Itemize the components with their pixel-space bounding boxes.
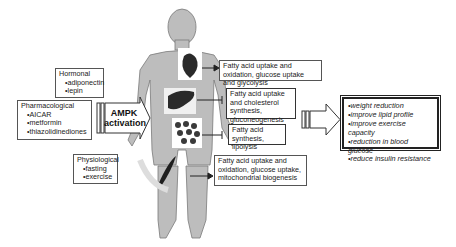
ampk-diagram: Hormonal adiponectin lepin Pharmacologic… <box>0 0 456 247</box>
ampk-line1: AMPK <box>104 108 144 118</box>
muscle-effect-box: Fatty acid uptake and oxidation, glucose… <box>214 155 307 186</box>
pharmacological-item: thiazolidinediones <box>27 128 88 137</box>
outcome-item: reduction in blood glucose <box>348 138 433 156</box>
ampk-line2: activation <box>104 118 144 128</box>
pharmacological-box: Pharmacological AICAR metformin thiazoli… <box>17 100 92 140</box>
heart-effect-box: Fatty acid uptake and oxidation, glucose… <box>219 60 322 81</box>
liver-effect-box: Fatty acid uptake and cholesterol synthe… <box>226 88 296 119</box>
outcome-item: reduce insulin resistance <box>348 155 433 164</box>
liver-effect-text: Fatty acid uptake and cholesterol synthe… <box>230 89 285 124</box>
clinical-outcomes-box: weight reduction improve lipid profile i… <box>342 97 439 149</box>
hormonal-item: lepin <box>65 87 100 96</box>
physiological-item: exercise <box>83 173 114 182</box>
ampk-activation-label: AMPK activation <box>104 108 144 128</box>
outcome-item: improve exercise capacity <box>348 120 433 138</box>
muscle-effect-text: Fatty acid uptake and oxidation, glucose… <box>218 156 301 182</box>
outcome-block-arrow <box>302 104 340 135</box>
hormonal-box: Hormonal adiponectin lepin <box>55 68 104 98</box>
arrow-muscle <box>208 173 213 179</box>
physiological-box: Physiological fasting exercise <box>73 154 118 184</box>
adipose-effect-box: Fatty acid synthesis, lipolysis <box>228 124 286 145</box>
